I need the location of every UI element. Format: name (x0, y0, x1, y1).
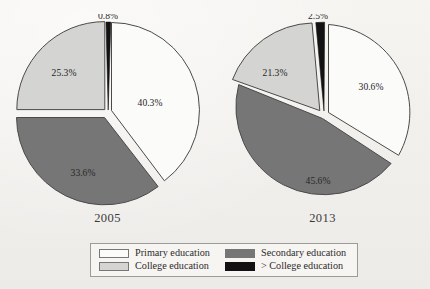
slice-college-2005[interactable] (16, 22, 104, 110)
legend-swatch-primary-education (99, 249, 129, 258)
pie-2005-svg: 40.3% 33.6% 25.3% 0.8% (8, 14, 208, 210)
pie-charts-area: 40.3% 33.6% 25.3% 0.8% 2005 (0, 0, 430, 232)
legend-swatch-secondary-education (225, 249, 255, 258)
slice-label-college-2013: 21.3% (262, 67, 287, 78)
legend-item-above-college-education[interactable]: > College education (225, 261, 351, 271)
legend-item-primary-education[interactable]: Primary education (99, 248, 221, 258)
slice-label-secondary-2005: 33.6% (70, 167, 95, 178)
slice-label-college-2005: 25.3% (51, 67, 76, 78)
legend-label-college-education: College education (135, 261, 209, 271)
legend-label-above-college-education: > College education (261, 261, 343, 271)
slice-label-above-college-2013: 2.5% (308, 14, 328, 21)
pie-2013-svg: 30.6% 45.6% 21.3% 2.5% (223, 14, 423, 210)
pie-year-label-2005: 2005 (0, 211, 215, 226)
pie-2013-slices (232, 22, 409, 195)
chart-page: 40.3% 33.6% 25.3% 0.8% 2005 (0, 0, 430, 289)
pie-2005-slices (16, 22, 199, 205)
legend-label-primary-education: Primary education (135, 248, 210, 258)
pie-chart-2005: 40.3% 33.6% 25.3% 0.8% 2005 (0, 0, 215, 232)
slice-label-secondary-2013: 45.6% (305, 175, 330, 186)
legend-swatch-above-college-education (225, 262, 255, 271)
legend-item-college-education[interactable]: College education (99, 261, 221, 271)
legend-label-secondary-education: Secondary education (261, 248, 346, 258)
pie-year-label-2013: 2013 (215, 211, 430, 226)
legend-swatch-college-education (99, 262, 129, 271)
legend-item-secondary-education[interactable]: Secondary education (225, 248, 351, 258)
pie-chart-2013: 30.6% 45.6% 21.3% 2.5% 2013 (215, 0, 430, 232)
slice-label-primary-2005: 40.3% (137, 97, 162, 108)
slice-label-primary-2013: 30.6% (358, 81, 383, 92)
chart-legend: Primary education Secondary education Co… (90, 243, 358, 277)
slice-label-above-college-2005: 0.8% (98, 14, 118, 21)
slice-above-college-2005[interactable] (106, 22, 111, 110)
